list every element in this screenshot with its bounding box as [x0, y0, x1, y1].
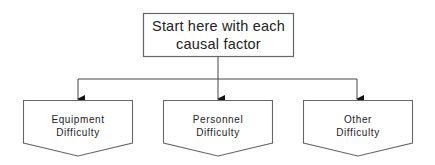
root-label-line-1: Start here with each: [143, 17, 294, 35]
equipment-label-line-1: Equipment: [23, 113, 133, 126]
personnel-label-line-2: Difficulty: [163, 126, 273, 139]
personnel-difficulty-node: Personnel Difficulty: [163, 111, 273, 141]
root-label-line-2: causal factor: [143, 35, 294, 53]
other-difficulty-node: Other Difficulty: [303, 111, 413, 141]
equipment-label-line-2: Difficulty: [23, 126, 133, 139]
personnel-label-line-1: Personnel: [163, 113, 273, 126]
other-label-line-2: Difficulty: [303, 126, 413, 139]
root-node-label: Start here with each causal factor: [143, 13, 294, 56]
other-label-line-1: Other: [303, 113, 413, 126]
equipment-difficulty-node: Equipment Difficulty: [23, 111, 133, 141]
